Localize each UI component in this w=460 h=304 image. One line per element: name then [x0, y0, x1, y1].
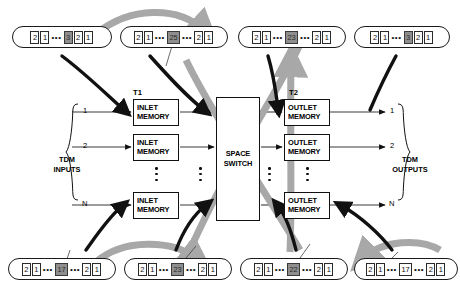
bottom-frame-2-cells-slot-3: 23 — [171, 263, 184, 276]
space-switch-label: SPACE SWITCH — [224, 149, 253, 168]
inlet-memory-1-line1: INLET — [137, 103, 178, 112]
top-frame-4-cells-slot-4: 2 — [414, 31, 423, 44]
bottom-frame-1-cells-ellipsis-2: ••• — [43, 264, 53, 275]
top-frame-1-cells-slot-3: 3 — [64, 31, 73, 44]
tdm-outputs-label-line1: TDM — [382, 155, 438, 165]
top-frame-2-cells: 21•••25•••21 — [134, 31, 214, 44]
input-port-2-label: 2 — [83, 141, 87, 150]
top-frame-4-cells-ellipsis-2: ••• — [391, 32, 401, 43]
input-port-n-label: N — [82, 199, 87, 208]
bottom-frame-4-cells: 21•••17•••21 — [366, 263, 446, 276]
top-frame-3-cells-slot-3: 23 — [285, 31, 298, 44]
bottom-frame-2-cells-slot-0: 2 — [138, 263, 147, 276]
bottom-frame-4-cells-slot-3: 17 — [399, 263, 412, 276]
top-frame-2-cells-slot-3: 25 — [167, 31, 180, 44]
outlet-memory-n[interactable]: OUTLET MEMORY — [284, 192, 330, 219]
bottom-frame-4-cells-ellipsis-2: ••• — [387, 264, 397, 275]
outlet-memory-n-line2: MEMORY — [288, 205, 329, 214]
input-port-1-label: 1 — [83, 106, 87, 115]
bottom-frame-1-cells: 21•••17•••21 — [22, 263, 102, 276]
top-frame-3-cells-slot-6: 1 — [322, 31, 331, 44]
top-frame-2[interactable]: 21•••25•••21 — [120, 26, 228, 48]
inlet-memory-ellipsis-icon — [155, 167, 158, 181]
inlet-memory-n-line2: MEMORY — [137, 205, 178, 214]
bottom-frame-2[interactable]: 21•••23•••21 — [124, 258, 232, 280]
bottom-frame-1-cells-slot-0: 2 — [22, 263, 31, 276]
inlet-memory-1[interactable]: INLET MEMORY — [133, 99, 179, 126]
bottom-frame-1-cells-slot-6: 1 — [92, 263, 101, 276]
top-frame-1-cells-slot-5: 1 — [84, 31, 93, 44]
top-frame-4-cells-slot-5: 1 — [424, 31, 433, 44]
top-frame-1-cells-ellipsis-2: ••• — [51, 32, 61, 43]
bottom-frame-2-cells: 21•••23•••21 — [138, 263, 218, 276]
top-frame-1[interactable]: 21•••321 — [12, 26, 112, 48]
bottom-frame-3[interactable]: 21•••22•••21 — [240, 258, 348, 280]
top-frame-4-cells-slot-3: 3 — [404, 31, 413, 44]
switch-output-ellipsis-icon — [268, 167, 271, 181]
bottom-frame-4[interactable]: 21•••17•••21 — [354, 258, 458, 280]
bottom-frame-4-cells-ellipsis-4: ••• — [414, 264, 424, 275]
top-frame-3-cells-ellipsis-4: ••• — [300, 32, 310, 43]
top-frame-2-cells-slot-6: 1 — [204, 31, 213, 44]
tdm-outputs-brace — [398, 104, 410, 200]
top-frame-4-cells-slot-0: 2 — [370, 31, 379, 44]
top-frame-2-cells-slot-5: 2 — [194, 31, 203, 44]
tdm-inputs-label-line2: INPUTS — [44, 165, 90, 175]
top-frame-4[interactable]: 21•••321 — [354, 26, 450, 48]
bottom-frame-3-cells-slot-3: 22 — [287, 263, 300, 276]
bottom-frame-3-cells-ellipsis-4: ••• — [302, 264, 312, 275]
inlet-to-switch-lines — [180, 112, 214, 205]
top-frame-2-cells-slot-0: 2 — [134, 31, 143, 44]
bottom-frame-4-cells-slot-6: 1 — [436, 263, 445, 276]
bottom-frame-1-cells-slot-3: 17 — [55, 263, 68, 276]
top-frame-3-cells-slot-1: 1 — [262, 31, 271, 44]
top-frame-2-cells-ellipsis-4: ••• — [182, 32, 192, 43]
black-arrow-in-4 — [370, 56, 396, 110]
gray-arrow-bottom-4 — [364, 242, 440, 258]
top-frame-1-cells-slot-0: 2 — [30, 31, 39, 44]
space-switch-block[interactable]: SPACE SWITCH — [216, 97, 260, 221]
top-frame-3-cells-slot-0: 2 — [252, 31, 261, 44]
bottom-frame-2-cells-ellipsis-2: ••• — [159, 264, 169, 275]
outlet-memory-n-line1: OUTLET — [288, 196, 329, 205]
black-arrow-out-1 — [86, 206, 122, 250]
inlet-memory-n[interactable]: INLET MEMORY — [133, 192, 179, 219]
top-frame-3[interactable]: 21•••23•••21 — [238, 26, 346, 48]
outlet-memory-1-line2: MEMORY — [288, 112, 329, 121]
top-frame-3-cells-slot-5: 2 — [312, 31, 321, 44]
inlet-memory-2[interactable]: INLET MEMORY — [133, 134, 179, 161]
top-frame-4-cells: 21•••321 — [370, 31, 433, 44]
bottom-frame-3-cells: 21•••22•••21 — [254, 263, 334, 276]
bottom-frame-2-cells-slot-1: 1 — [148, 263, 157, 276]
outlet-memory-1[interactable]: OUTLET MEMORY — [284, 99, 330, 126]
top-frame-3-cells-ellipsis-2: ••• — [273, 32, 283, 43]
top-frame-2-cells-slot-1: 1 — [144, 31, 153, 44]
top-frame-1-cells-slot-1: 1 — [40, 31, 49, 44]
bottom-frame-4-cells-slot-1: 1 — [376, 263, 385, 276]
outlet-memory-2[interactable]: OUTLET MEMORY — [284, 134, 330, 161]
top-frame-2-cells-ellipsis-2: ••• — [155, 32, 165, 43]
inlet-memory-2-line1: INLET — [137, 138, 178, 147]
stage-label-t2: T2 — [289, 88, 298, 97]
inlet-memory-2-line2: MEMORY — [137, 147, 178, 156]
switch-input-ellipsis-icon — [199, 167, 202, 181]
bottom-frame-2-cells-ellipsis-4: ••• — [186, 264, 196, 275]
space-switch-label-line2: SWITCH — [224, 159, 253, 169]
outlet-memory-1-line1: OUTLET — [288, 103, 329, 112]
inlet-memory-n-line1: INLET — [137, 196, 178, 205]
outlet-memory-2-line1: OUTLET — [288, 138, 329, 147]
bottom-frame-3-cells-slot-1: 1 — [264, 263, 273, 276]
top-frame-4-cells-slot-1: 1 — [380, 31, 389, 44]
bottom-frame-1[interactable]: 21•••17•••21 — [8, 258, 116, 280]
space-switch-label-line1: SPACE — [224, 149, 253, 159]
bottom-frame-2-cells-slot-6: 1 — [208, 263, 217, 276]
bottom-frame-4-cells-slot-0: 2 — [366, 263, 375, 276]
bottom-frame-3-cells-ellipsis-2: ••• — [275, 264, 285, 275]
output-port-2-label: 2 — [390, 141, 394, 150]
bottom-frame-1-cells-slot-1: 1 — [32, 263, 41, 276]
top-frame-1-cells: 21•••321 — [30, 31, 93, 44]
bottom-frame-1-cells-ellipsis-4: ••• — [70, 264, 80, 275]
bottom-frame-1-cells-slot-5: 2 — [82, 263, 91, 276]
output-port-n-label: N — [389, 199, 394, 208]
outlet-memory-2-line2: MEMORY — [288, 147, 329, 156]
